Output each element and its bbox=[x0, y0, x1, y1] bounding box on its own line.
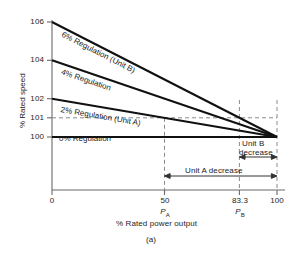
annotation-unit-b-line2: decrease bbox=[239, 148, 273, 157]
annotation-unit-b-line1: Unit B bbox=[242, 139, 264, 148]
pb-subscript: B bbox=[241, 212, 245, 218]
x-tick-label-0: 0 bbox=[42, 196, 62, 205]
x-tick-marks bbox=[52, 190, 277, 195]
y-tick-label-102: 102 bbox=[20, 94, 44, 103]
y-tick-marks bbox=[47, 22, 52, 137]
x-axis-title: % Rated power output bbox=[116, 219, 197, 228]
x-tick-label-50: 50 bbox=[154, 196, 176, 205]
annotation-unit-a: Unit A decrease bbox=[185, 166, 243, 175]
x-tick-label-100: 100 bbox=[266, 196, 288, 205]
pa-subscript: A bbox=[166, 212, 170, 218]
x-tick-label-83-3: 83.3 bbox=[227, 196, 253, 205]
y-tick-label-101: 101 bbox=[20, 113, 44, 122]
x-sublabel-pb: PB bbox=[229, 207, 251, 218]
figure-container: % Rated speed 106 104 102 101 100 0 50 8… bbox=[0, 0, 302, 258]
y-tick-label-100: 100 bbox=[20, 132, 44, 141]
series-label-0pct: 0% Regulation bbox=[59, 134, 111, 143]
y-tick-label-106: 106 bbox=[20, 17, 44, 26]
x-sublabel-pa: PA bbox=[154, 207, 176, 218]
y-tick-label-104: 104 bbox=[20, 55, 44, 64]
figure-caption: (a) bbox=[0, 235, 302, 244]
